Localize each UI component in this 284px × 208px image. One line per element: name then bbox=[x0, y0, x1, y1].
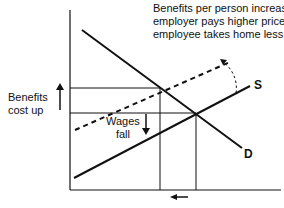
benefits-line-1: Benefits bbox=[8, 91, 48, 104]
supply-curve bbox=[74, 86, 250, 178]
up-arrowhead-icon bbox=[56, 83, 64, 90]
annotation-text: Benefits per person increase, employer p… bbox=[153, 2, 284, 41]
benefits-cost-up-label: Benefits cost up bbox=[8, 91, 48, 117]
wages-line-2: fall bbox=[106, 128, 140, 141]
benefits-line-2: cost up bbox=[8, 104, 48, 117]
annotation-line-3: employee takes home less. bbox=[153, 28, 284, 41]
left-arrowhead-icon bbox=[170, 194, 177, 200]
shift-arrow-icon bbox=[222, 61, 236, 93]
demand-label: D bbox=[244, 148, 253, 161]
annotation-line-2: employer pays higher price, bbox=[153, 15, 284, 28]
supply-label: S bbox=[254, 79, 262, 92]
wages-line-1: Wages bbox=[106, 115, 140, 128]
down-arrowhead-icon bbox=[142, 128, 150, 135]
wages-fall-label: Wages fall bbox=[106, 115, 140, 141]
supply-demand-diagram: Benefits per person increase, employer p… bbox=[0, 0, 284, 208]
annotation-line-1: Benefits per person increase, bbox=[153, 2, 284, 15]
shifted-supply-curve bbox=[75, 62, 230, 130]
